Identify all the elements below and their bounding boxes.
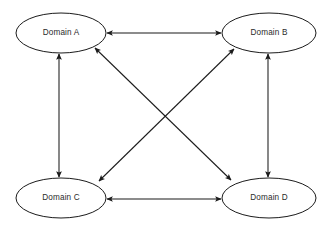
- diagram-canvas: Domain A Domain B Domain C Domain D: [0, 0, 326, 230]
- node-domain-b-label: Domain B: [250, 28, 288, 37]
- node-domain-b[interactable]: Domain B: [222, 13, 316, 53]
- node-domain-d-label: Domain D: [250, 193, 288, 202]
- edge-domain-b-domain-c[interactable]: [99, 49, 234, 181]
- edge-layer: [59, 33, 268, 199]
- edge-domain-a-domain-d[interactable]: [95, 48, 231, 180]
- domain-relationship-graph: Domain A Domain B Domain C Domain D: [0, 0, 326, 230]
- node-domain-d[interactable]: Domain D: [222, 178, 316, 218]
- node-domain-c-label: Domain C: [42, 193, 80, 202]
- node-domain-a-label: Domain A: [43, 28, 80, 37]
- node-domain-a[interactable]: Domain A: [16, 13, 106, 53]
- node-domain-c[interactable]: Domain C: [16, 178, 106, 218]
